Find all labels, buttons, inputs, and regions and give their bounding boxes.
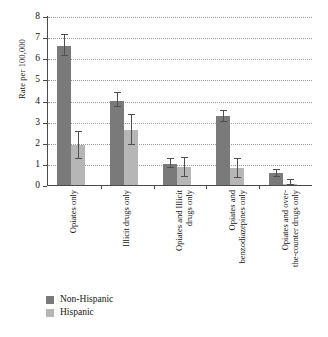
error-bar — [184, 158, 185, 177]
error-bar-cap-top — [273, 169, 280, 170]
bar-chart-figure: Rate per 100,000 012345678 Opiates onlyI… — [0, 0, 328, 337]
plot-area: 012345678 — [47, 16, 312, 186]
y-axis-tick-label: 3 — [35, 118, 40, 128]
error-bar-cap-bottom — [220, 121, 227, 122]
error-bar — [78, 132, 79, 158]
error-bar — [64, 35, 65, 56]
error-bar — [131, 115, 132, 145]
y-axis-tick — [43, 165, 47, 166]
x-axis-category-label: Opiates and over-the-counter drugs only — [281, 190, 300, 267]
error-bar-cap-bottom — [234, 177, 241, 178]
y-axis-tick — [43, 102, 47, 103]
y-axis-tick — [43, 38, 47, 39]
error-bar-cap-top — [128, 114, 135, 115]
error-bar-cap-bottom — [273, 176, 280, 177]
bar-group — [48, 16, 101, 185]
error-bar-cap-top — [181, 157, 188, 158]
bar-groups — [48, 16, 312, 185]
error-bar-cap-top — [167, 158, 174, 159]
y-axis-tick-label: 1 — [35, 160, 40, 170]
error-bar-cap-bottom — [128, 144, 135, 145]
x-axis-tick — [154, 185, 155, 189]
y-axis-tick-label: 8 — [35, 12, 40, 22]
x-axis-category-label-line: Illicit drugs only — [122, 190, 132, 247]
error-bar-cap-bottom — [75, 158, 82, 159]
error-bar — [237, 159, 238, 178]
legend-item[interactable]: Hispanic — [46, 306, 113, 319]
x-axis-category-label: Illicit drugs only — [122, 190, 132, 247]
legend-item[interactable]: Non-Hispanic — [46, 293, 113, 306]
y-axis-tick — [43, 123, 47, 124]
error-bar-cap-bottom — [181, 176, 188, 177]
y-axis-tick — [43, 186, 47, 187]
bar-group — [154, 16, 207, 185]
legend-label: Non-Hispanic — [60, 293, 113, 306]
error-bar-cap-bottom — [287, 184, 294, 185]
x-axis-tick — [206, 185, 207, 189]
chart-legend: Non-HispanicHispanic — [46, 293, 113, 319]
error-bar-cap-top — [220, 110, 227, 111]
y-axis-tick — [43, 59, 47, 60]
x-axis-tick — [101, 185, 102, 189]
legend-label: Hispanic — [60, 306, 94, 319]
bar-group — [101, 16, 154, 185]
x-axis-category-label-line: Opiates only — [69, 190, 79, 233]
y-axis-tick-label: 0 — [35, 181, 40, 191]
x-axis-category-label: Opiates only — [69, 190, 79, 233]
error-bar-cap-bottom — [167, 167, 174, 168]
error-bar — [117, 93, 118, 107]
error-bar-cap-top — [287, 179, 294, 180]
legend-swatch — [46, 309, 54, 317]
bar-group — [206, 16, 259, 185]
x-axis-line — [47, 185, 312, 186]
x-axis-category-label-line: the-counter drugs only — [290, 190, 300, 267]
x-axis-category-label-line: benzodiazepines only — [237, 190, 247, 263]
bar[interactable] — [216, 116, 230, 185]
y-axis-tick-label: 4 — [35, 97, 40, 107]
legend-swatch — [46, 296, 54, 304]
y-axis-tick — [43, 144, 47, 145]
error-bar-cap-top — [61, 34, 68, 35]
y-axis-tick-label: 6 — [35, 55, 40, 65]
y-axis-tick — [43, 17, 47, 18]
y-axis-tick-label: 5 — [35, 76, 40, 86]
error-bar-cap-bottom — [61, 55, 68, 56]
y-axis-tick-label: 2 — [35, 139, 40, 149]
y-axis-tick — [43, 80, 47, 81]
error-bar-cap-bottom — [114, 106, 121, 107]
error-bar-cap-top — [114, 92, 121, 93]
x-axis-category-label: Opiates andbenzodiazepines only — [228, 190, 247, 263]
bar[interactable] — [57, 46, 71, 185]
error-bar-cap-top — [234, 158, 241, 159]
bar-group — [259, 16, 312, 185]
x-axis-labels: Opiates onlyIllicit drugs onlyOpiates an… — [47, 190, 312, 290]
x-axis-category-label-line: Opiates and — [228, 190, 238, 263]
x-axis-tick — [259, 185, 260, 189]
y-axis-tick-label: 7 — [35, 33, 40, 43]
x-axis-category-label-line: drugs only — [185, 190, 195, 251]
error-bar-cap-top — [75, 131, 82, 132]
y-axis-title: Rate per 100,000 — [17, 14, 27, 124]
x-axis-category-label-line: Opiates and over- — [281, 190, 291, 267]
bar[interactable] — [110, 101, 124, 186]
x-axis-category-label: Opiates and Illicitdrugs only — [175, 190, 194, 251]
